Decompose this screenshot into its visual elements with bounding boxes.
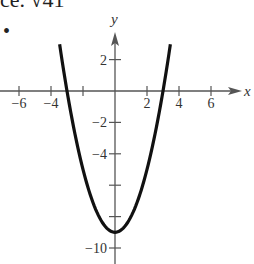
y-axis-label: y [109, 11, 118, 27]
parabola-chart: −6−42462−2−4−10 x y [0, 0, 254, 264]
x-tick-label: 6 [208, 96, 215, 111]
x-tick-label: 4 [176, 96, 183, 111]
x-tick-label: 2 [144, 96, 151, 111]
y-tick-label: 2 [100, 53, 107, 68]
y-tick-label: −2 [92, 115, 107, 130]
y-tick-label: −10 [85, 241, 107, 256]
x-tick-label: −4 [44, 96, 59, 111]
y-tick-label: −4 [92, 147, 107, 162]
x-axis-label: x [243, 83, 251, 99]
x-tick-label: −6 [12, 96, 27, 111]
